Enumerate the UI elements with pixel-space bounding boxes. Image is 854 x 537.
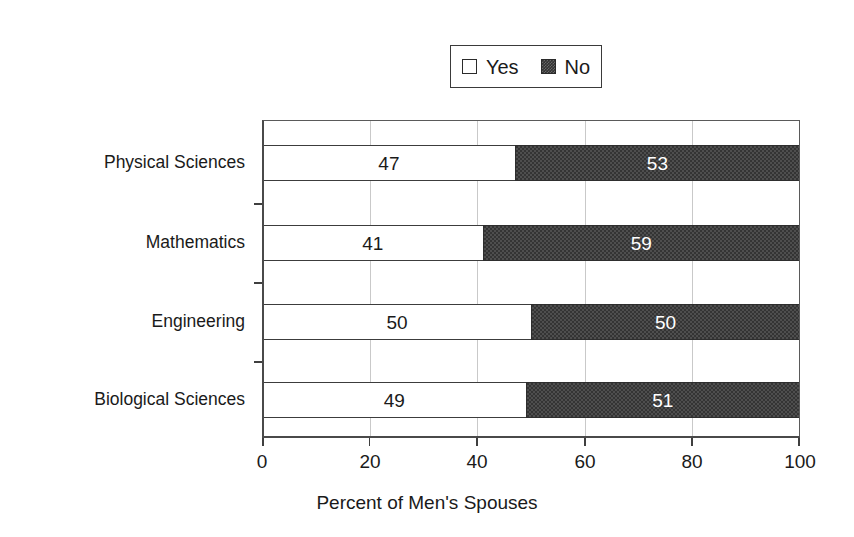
legend-swatch-open-square-icon <box>462 59 477 74</box>
bar-value-no-engineering: 50 <box>655 313 676 332</box>
legend-label-no: No <box>565 57 591 77</box>
bar-value-yes-mathematics: 41 <box>362 234 383 253</box>
y-axis-label-engineering: Engineering <box>152 313 245 331</box>
bar-value-yes-engineering: 50 <box>386 313 407 332</box>
bar-value-no-physical-sciences: 53 <box>647 154 668 173</box>
legend-label-yes: Yes <box>486 57 519 77</box>
bar-segment-yes-biological-sciences: 49 <box>262 382 526 418</box>
x-axis-ticklabel-20: 20 <box>359 452 380 471</box>
x-axis-tick-80 <box>691 438 693 446</box>
chart-legend: Yes No <box>450 45 602 88</box>
table-row: 41 59 <box>262 225 800 261</box>
x-axis-ticklabel-40: 40 <box>466 452 487 471</box>
x-axis-tick-0 <box>262 438 264 446</box>
y-axis-tick-3 <box>254 361 262 363</box>
legend-entry-yes: Yes <box>462 57 519 77</box>
y-axis-label-mathematics: Mathematics <box>146 234 245 252</box>
x-axis-ticklabel-0: 0 <box>257 452 268 471</box>
x-axis-tick-20 <box>369 438 371 446</box>
table-row: 47 53 <box>262 145 800 181</box>
x-axis-ticklabel-60: 60 <box>574 452 595 471</box>
bar-value-no-mathematics: 59 <box>631 234 652 253</box>
bar-value-yes-biological-sciences: 49 <box>384 391 405 410</box>
plot-area: 47 53 41 59 50 50 49 51 <box>262 120 800 438</box>
bar-segment-no-engineering: 50 <box>531 304 800 340</box>
bar-value-no-biological-sciences: 51 <box>652 391 673 410</box>
y-axis-label-physical-sciences: Physical Sciences <box>104 154 245 172</box>
table-row: 49 51 <box>262 382 800 418</box>
bar-segment-yes-physical-sciences: 47 <box>262 145 515 181</box>
legend-entry-no: No <box>541 57 591 77</box>
y-axis-tick-1 <box>254 203 262 205</box>
bar-value-yes-physical-sciences: 47 <box>378 154 399 173</box>
legend-swatch-filled-square-icon <box>541 59 556 74</box>
table-row: 50 50 <box>262 304 800 340</box>
bar-segment-no-mathematics: 59 <box>483 225 800 261</box>
bar-segment-no-biological-sciences: 51 <box>526 382 800 418</box>
x-axis-title: Percent of Men's Spouses <box>0 492 854 514</box>
bar-segment-yes-engineering: 50 <box>262 304 531 340</box>
x-axis-tick-60 <box>584 438 586 446</box>
y-axis-tick-2 <box>254 282 262 284</box>
x-axis-tick-40 <box>476 438 478 446</box>
x-axis-ticklabel-80: 80 <box>681 452 702 471</box>
x-axis-tick-100 <box>798 438 800 446</box>
bar-segment-yes-mathematics: 41 <box>262 225 483 261</box>
y-axis-label-biological-sciences: Biological Sciences <box>94 391 245 409</box>
bar-segment-no-physical-sciences: 53 <box>515 145 800 181</box>
x-axis-ticklabel-100: 100 <box>784 452 816 471</box>
